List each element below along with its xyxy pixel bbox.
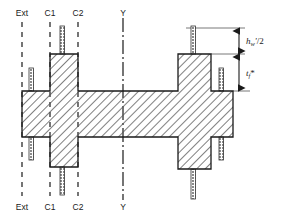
dimension-labels: hw'/2 tf* bbox=[246, 36, 264, 79]
dimension-label-upper: hw'/2 bbox=[246, 36, 264, 47]
axis-label-y-top: Y bbox=[120, 8, 126, 18]
cross-section-diagram: hw'/2 tf* Ext C1 C2 Y Ext C1 C2 Y bbox=[0, 0, 292, 219]
stiffener-right-outer-upper bbox=[219, 68, 224, 91]
cross-section-body bbox=[22, 54, 233, 169]
stiffener-left-web-upper bbox=[60, 26, 65, 54]
top-axis-labels: Ext C1 C2 Y bbox=[16, 8, 126, 18]
stiffener-left-outer-upper bbox=[29, 68, 34, 91]
dimension-label-lower: tf* bbox=[246, 68, 255, 79]
axis-label-c2-top: C2 bbox=[73, 8, 84, 18]
axis-label-c2-bottom: C2 bbox=[73, 202, 84, 212]
axis-label-c1-bottom: C1 bbox=[45, 202, 56, 212]
stiffener-right-web-upper bbox=[191, 26, 196, 54]
axis-label-ext-top: Ext bbox=[16, 8, 29, 18]
axis-label-ext-bottom: Ext bbox=[16, 202, 29, 212]
stiffener-left-outer-lower bbox=[29, 137, 34, 160]
section-outline bbox=[22, 54, 233, 169]
axis-label-c1-top: C1 bbox=[45, 8, 56, 18]
stiffener-left-web-lower bbox=[60, 167, 65, 195]
axis-label-y-bottom: Y bbox=[120, 202, 126, 212]
stiffener-right-web-lower bbox=[191, 169, 196, 199]
figure-container: hw'/2 tf* Ext C1 C2 Y Ext C1 C2 Y bbox=[0, 0, 292, 219]
bottom-axis-labels: Ext C1 C2 Y bbox=[16, 202, 126, 212]
stiffener-right-outer-lower bbox=[219, 137, 224, 160]
